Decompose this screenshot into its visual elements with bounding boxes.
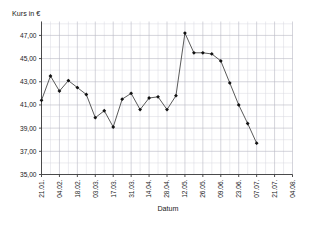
y-tick-label: 37,00 [20,148,37,155]
x-tick-label: 17.03. [110,179,117,198]
x-tick-label: 31.03. [128,179,135,198]
x-tick-label: 28.04. [163,179,170,198]
y-tick-label: 45,00 [20,55,37,62]
x-tick-label: 21.01. [38,179,45,198]
x-tick-label: 04.02. [56,179,63,198]
data-point [255,141,259,145]
x-tick-label: 12.05. [181,179,188,198]
x-tick-label: 18.02. [74,179,81,198]
x-axis-title: Datum [157,204,178,213]
x-tick-label: 04.08. [289,179,296,198]
y-tick-label: 47,00 [20,32,37,39]
x-tick-label: 26.05. [199,179,206,198]
data-point [192,51,196,55]
major-gridlines [42,22,293,175]
y-axis-title: Kurs in € [12,9,40,18]
data-point [40,98,44,102]
data-point [49,74,53,78]
line-chart: 35,0037,0039,0041,0043,0045,0047,00 21.0… [0,0,310,225]
x-tick-label: 03.03. [92,179,99,198]
y-tick-label: 35,00 [20,171,37,178]
data-point [237,103,241,107]
data-point [201,51,205,55]
data-point [183,31,187,35]
chart-container: 35,0037,0039,0041,0043,0045,0047,00 21.0… [0,0,310,225]
y-axis-tick-labels: 35,0037,0039,0041,0043,0045,0047,00 [20,32,37,178]
x-tick-label: 21.07. [271,179,278,198]
x-tick-label: 07.07. [253,179,260,198]
axis-lines [39,22,293,178]
x-axis-tick-labels: 21.01.04.02.18.02.03.03.17.03.31.03.14.0… [38,179,296,198]
y-tick-label: 41,00 [20,101,37,108]
y-tick-label: 39,00 [20,125,37,132]
x-tick-label: 14.04. [145,179,152,198]
y-tick-label: 43,00 [20,78,37,85]
data-point [246,122,250,126]
x-tick-label: 09.06. [217,179,224,198]
x-tick-label: 23.06. [235,179,242,198]
